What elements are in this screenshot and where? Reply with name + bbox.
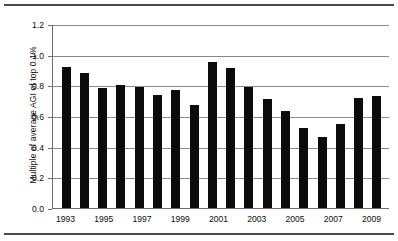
bar-1993[interactable] bbox=[62, 67, 71, 208]
bar-slot bbox=[295, 25, 313, 208]
bar-slot bbox=[258, 25, 276, 208]
bar-1995[interactable] bbox=[98, 88, 107, 208]
bar-2006[interactable] bbox=[299, 128, 308, 208]
bar-slot bbox=[94, 25, 112, 208]
figure-page: Multiple of average AGI of top 0.1% 0.00… bbox=[0, 0, 398, 241]
bar-1998[interactable] bbox=[153, 95, 162, 208]
y-tick-label: 0.0 bbox=[32, 204, 44, 214]
x-tick-label-2007: 2007 bbox=[324, 209, 343, 229]
x-tick-label-2005: 2005 bbox=[286, 209, 305, 229]
bar-slot bbox=[350, 25, 368, 208]
bar-series bbox=[53, 25, 389, 208]
bar-slot bbox=[276, 25, 294, 208]
plot-area bbox=[52, 25, 389, 209]
x-tick-label-2009: 2009 bbox=[362, 209, 381, 229]
x-axis-tick-labels: 1993199419951996199719981999200020012002… bbox=[52, 209, 389, 229]
y-axis-tick-labels: 0.00.20.40.60.81.01.2 bbox=[0, 25, 52, 209]
bar-2008[interactable] bbox=[336, 124, 345, 208]
bar-slot bbox=[313, 25, 331, 208]
x-tick-label-1995: 1995 bbox=[94, 209, 113, 229]
x-tick-label-1997: 1997 bbox=[133, 209, 152, 229]
bar-slot bbox=[148, 25, 166, 208]
bar-slot bbox=[368, 25, 386, 208]
bar-slot bbox=[331, 25, 349, 208]
bar-chart: Multiple of average AGI of top 0.1% 0.00… bbox=[0, 10, 398, 235]
bar-slot bbox=[130, 25, 148, 208]
bar-1994[interactable] bbox=[80, 73, 89, 208]
bar-2009[interactable] bbox=[354, 98, 363, 208]
bar-2000[interactable] bbox=[190, 105, 199, 208]
y-tick-label: 1.0 bbox=[32, 51, 44, 61]
bar-2005[interactable] bbox=[281, 111, 290, 208]
x-tick-label-2001: 2001 bbox=[209, 209, 228, 229]
y-tick-label: 0.4 bbox=[32, 143, 44, 153]
x-tick-label-1993: 1993 bbox=[56, 209, 75, 229]
bar-2010[interactable] bbox=[372, 96, 381, 208]
bar-1999[interactable] bbox=[171, 90, 180, 208]
bar-2001[interactable] bbox=[208, 62, 217, 208]
figure-top-rule bbox=[4, 4, 394, 6]
y-tick-label: 0.6 bbox=[32, 112, 44, 122]
bar-2004[interactable] bbox=[263, 99, 272, 208]
bar-slot bbox=[203, 25, 221, 208]
bar-slot bbox=[185, 25, 203, 208]
x-tick-label-2003: 2003 bbox=[247, 209, 266, 229]
y-tick-label: 0.2 bbox=[32, 173, 44, 183]
bar-slot bbox=[112, 25, 130, 208]
y-tick-label: 1.2 bbox=[32, 20, 44, 30]
x-tick-label-1999: 1999 bbox=[171, 209, 190, 229]
bar-slot bbox=[222, 25, 240, 208]
bar-2007[interactable] bbox=[318, 137, 327, 208]
bar-slot bbox=[57, 25, 75, 208]
bar-slot bbox=[167, 25, 185, 208]
bar-1996[interactable] bbox=[116, 85, 125, 208]
bar-slot bbox=[75, 25, 93, 208]
bar-2003[interactable] bbox=[244, 87, 253, 208]
bar-2002[interactable] bbox=[226, 68, 235, 208]
y-tick-label: 0.8 bbox=[32, 81, 44, 91]
bar-slot bbox=[240, 25, 258, 208]
bar-1997[interactable] bbox=[135, 87, 144, 208]
